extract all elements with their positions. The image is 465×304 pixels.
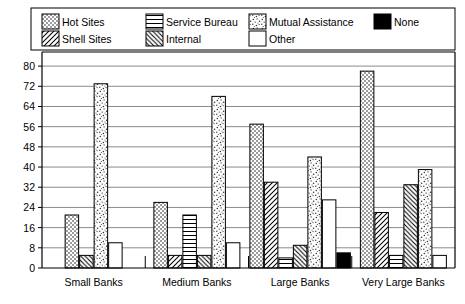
bar-shell-sites bbox=[264, 182, 278, 268]
legend-label: Hot Sites bbox=[62, 16, 105, 28]
y-tick-label: 80 bbox=[23, 60, 35, 72]
legend-item: None bbox=[374, 14, 419, 29]
bar-service-bureau bbox=[389, 255, 403, 268]
bar-internal bbox=[80, 255, 94, 268]
y-tick-label: 16 bbox=[23, 222, 35, 234]
bar-mutual-assistance bbox=[418, 170, 432, 268]
y-tick-label: 32 bbox=[23, 181, 35, 193]
legend-swatch-checker-gray bbox=[42, 14, 59, 29]
legend-item: Internal bbox=[146, 31, 201, 46]
legend-item: Shell Sites bbox=[42, 31, 112, 46]
legend-item: Hot Sites bbox=[42, 14, 105, 29]
bar-internal bbox=[404, 185, 418, 268]
legend-label: Shell Sites bbox=[62, 33, 112, 45]
bar-chart: Hot SitesShell SitesService BureauIntern… bbox=[0, 0, 465, 304]
bar-shell-sites bbox=[375, 212, 389, 268]
bar-internal bbox=[293, 245, 307, 268]
category-label: Very Large Banks bbox=[362, 276, 445, 288]
legend-label: Mutual Assistance bbox=[269, 16, 354, 28]
bar-hot-sites bbox=[250, 124, 264, 268]
bar-service-bureau bbox=[183, 215, 197, 268]
bar-service-bureau bbox=[279, 258, 293, 268]
bar-other bbox=[433, 255, 447, 268]
legend-label: Service Bureau bbox=[166, 16, 238, 28]
category-label: Small Banks bbox=[64, 276, 122, 288]
bar-other bbox=[322, 200, 336, 268]
bar-hot-sites bbox=[154, 202, 168, 268]
legend-swatch-solid-white bbox=[249, 31, 266, 46]
bar-mutual-assistance bbox=[94, 84, 108, 268]
y-tick-label: 48 bbox=[23, 141, 35, 153]
legend-label: None bbox=[394, 16, 419, 28]
bar-none bbox=[337, 253, 351, 268]
bar-internal bbox=[197, 255, 211, 268]
bar-other bbox=[226, 243, 240, 268]
legend-item: Service Bureau bbox=[146, 14, 238, 29]
category-label: Large Banks bbox=[271, 276, 330, 288]
legend-item: Other bbox=[249, 31, 296, 46]
legend-item: Mutual Assistance bbox=[249, 14, 354, 29]
bar-hot-sites bbox=[65, 215, 79, 268]
legend-label: Other bbox=[269, 33, 296, 45]
legend-swatch-diagonal-back bbox=[146, 31, 163, 46]
y-tick-label: 0 bbox=[29, 262, 35, 274]
y-tick-label: 72 bbox=[23, 80, 35, 92]
y-tick-label: 8 bbox=[29, 242, 35, 254]
bar-hot-sites bbox=[360, 71, 374, 268]
bar-other bbox=[109, 243, 123, 268]
y-tick-label: 64 bbox=[23, 100, 35, 112]
legend-swatch-diagonal-fwd bbox=[42, 31, 59, 46]
y-tick-label: 24 bbox=[23, 201, 35, 213]
chart-canvas: Hot SitesShell SitesService BureauIntern… bbox=[0, 0, 465, 304]
bar-mutual-assistance bbox=[308, 157, 322, 268]
legend-swatch-solid-black bbox=[374, 14, 391, 29]
legend-label: Internal bbox=[166, 33, 201, 45]
y-tick-label: 40 bbox=[23, 161, 35, 173]
legend-swatch-horizontal bbox=[146, 14, 163, 29]
category-label: Medium Banks bbox=[162, 276, 231, 288]
y-tick-label: 56 bbox=[23, 121, 35, 133]
bar-shell-sites bbox=[168, 255, 182, 268]
bar-mutual-assistance bbox=[212, 96, 226, 268]
legend: Hot SitesShell SitesService BureauIntern… bbox=[31, 8, 455, 50]
legend-swatch-stipple bbox=[249, 14, 266, 29]
